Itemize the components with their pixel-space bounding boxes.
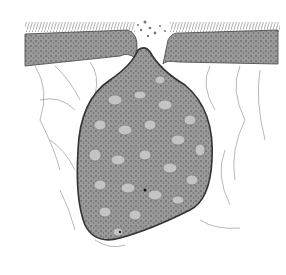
gland-drawing [0,0,286,275]
surface-hairs [25,22,280,32]
gland-sac [77,48,212,240]
secretion-particles [137,21,166,38]
illustration [0,0,286,275]
